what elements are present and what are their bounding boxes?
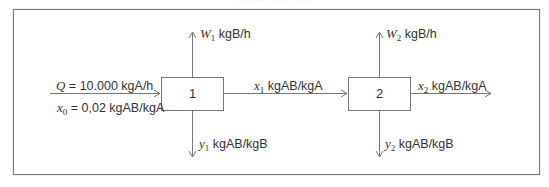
extract1-label: y1 kgAB/kgB (199, 137, 268, 155)
solvent1-label: W1 kgB/h (200, 27, 251, 45)
extract2-label: y2 kgAB/kgB (385, 137, 454, 155)
raffinate2-text: kgAB/kgA (428, 79, 486, 93)
raffinate1-label: x1 kgAB/kgA (254, 79, 323, 97)
solvent1-text: kgB/h (215, 27, 250, 41)
solvent1-var: W (200, 26, 211, 41)
raffinate1-text: kgAB/kgA (264, 79, 322, 93)
solvent2-text: kgB/h (401, 27, 436, 41)
raffinate2-label: x2 kgAB/kgA (418, 79, 487, 97)
unit2-label: 2 (348, 86, 411, 101)
extract2-text: kgAB/kgB (395, 137, 453, 151)
unit1-label: 1 (161, 86, 224, 101)
solvent2-label: W2 kgB/h (386, 27, 437, 45)
feed-conc-label: x0 = 0,02 kgAB/kgA (57, 101, 164, 119)
extract1-text: kgAB/kgB (209, 137, 267, 151)
solvent2-var: W (386, 26, 397, 41)
feed-flow-label: Q = 10.000 kgA/h (56, 79, 153, 93)
feed-flow-text: = 10.000 kgA/h (65, 79, 153, 93)
feed-conc-text: = 0,02 kgAB/kgA (67, 101, 164, 115)
feed-flow-var: Q (56, 78, 65, 93)
